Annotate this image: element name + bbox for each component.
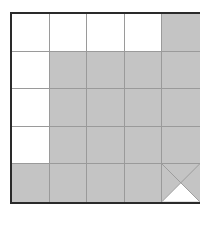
grid-cell-r3-c3: [125, 127, 163, 165]
grid-cell-r1-c0: [12, 52, 50, 90]
grid-cell-r1-c3: [125, 52, 163, 90]
grid-cell-r2-c3: [125, 89, 163, 127]
grid-cell-r2-c2: [87, 89, 125, 127]
grid-cell-r4-c3: [125, 164, 163, 202]
grid-cell-r4-c1: [50, 164, 88, 202]
grid-cell-r2-c0: [12, 89, 50, 127]
grid-cell-r3-c4: [162, 127, 200, 165]
grid-cell-r2-c1: [50, 89, 88, 127]
grid-cell-r0-c0: [12, 14, 50, 52]
grid-cell-r1-c1: [50, 52, 88, 90]
grid-cell-r1-c4: [162, 52, 200, 90]
grid-cell-r4-c0: [12, 164, 50, 202]
grid-cell-r3-c1: [50, 127, 88, 165]
grid-cell-r4-c4: [162, 164, 200, 202]
grid-cell-r0-c2: [87, 14, 125, 52]
grid-figure: [10, 12, 200, 204]
grid-cell-r0-c3: [125, 14, 163, 52]
grid-cell-r2-c4: [162, 89, 200, 127]
grid-cell-r3-c2: [87, 127, 125, 165]
grid-cell-r4-c2: [87, 164, 125, 202]
grid-cell-r1-c2: [87, 52, 125, 90]
grid-cell-r0-c4: [162, 14, 200, 52]
diagonal-split-shape: [162, 164, 200, 202]
grid-cell-r0-c1: [50, 14, 88, 52]
grid-cell-r3-c0: [12, 127, 50, 165]
